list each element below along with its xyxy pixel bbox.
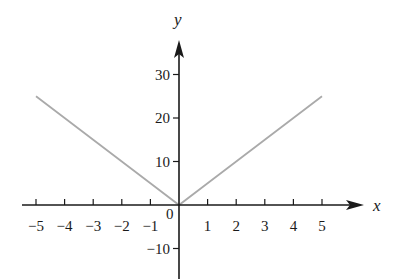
x-tick-label: −4 xyxy=(57,218,73,234)
x-axis-label: x xyxy=(372,196,381,215)
x-tick-label: 1 xyxy=(204,218,212,234)
y-tick-label: −10 xyxy=(147,241,170,257)
x-tick-label: −1 xyxy=(142,218,158,234)
y-tick-label: 10 xyxy=(155,154,170,170)
x-tick-label: −3 xyxy=(85,218,101,234)
origin-label: 0 xyxy=(166,206,174,222)
y-axis-label: y xyxy=(172,10,182,29)
x-tick-label: 2 xyxy=(232,218,240,234)
x-tick-label: 5 xyxy=(318,218,326,234)
y-tick-label: 20 xyxy=(155,110,170,126)
x-tick-label: −2 xyxy=(114,218,130,234)
chart-canvas: −5−4−3−2−112345302010−10 x y 0 xyxy=(0,0,393,279)
x-tick-label: 3 xyxy=(261,218,269,234)
ticks-layer: −5−4−3−2−112345302010−10 xyxy=(28,67,326,257)
axes-layer xyxy=(22,40,364,279)
x-tick-label: −5 xyxy=(28,218,44,234)
y-tick-label: 30 xyxy=(155,67,170,83)
x-tick-label: 4 xyxy=(290,218,298,234)
